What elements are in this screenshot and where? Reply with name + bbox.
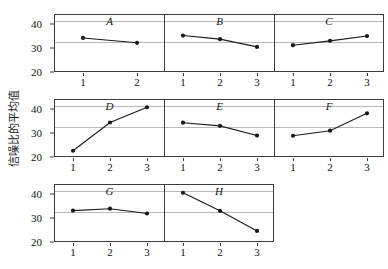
y-tick-label: 40 <box>31 103 42 114</box>
panel-strip: G123H123 <box>54 184 274 242</box>
x-tick-label: 1 <box>80 76 86 88</box>
series-line <box>165 100 275 158</box>
panel-row: 203040A12B123C123 <box>0 14 384 88</box>
panel-strip: D123E123F123 <box>54 99 384 157</box>
panel-strip: A12B123C123 <box>54 14 384 72</box>
y-axis: 203040 <box>0 184 54 242</box>
chart-panel-b: B123 <box>164 14 274 72</box>
x-tick-label: 3 <box>254 161 260 173</box>
x-tick-label: 1 <box>180 76 186 88</box>
x-tick-label: 1 <box>180 161 186 173</box>
series-line <box>55 185 165 243</box>
x-axis: 123 <box>275 73 385 89</box>
x-tick-label: 1 <box>180 246 186 258</box>
x-tick-label: 3 <box>144 161 150 173</box>
y-tick-label: 30 <box>31 42 42 53</box>
x-tick-label: 3 <box>254 76 260 88</box>
chart-figure: 信噪比的平均值 203040A12B123C123203040D123E123F… <box>0 0 388 269</box>
x-tick-label: 2 <box>217 161 223 173</box>
chart-panel-f: F123 <box>274 99 384 157</box>
y-tick-label: 30 <box>31 212 42 223</box>
x-axis: 12 <box>55 73 165 89</box>
x-tick-label: 2 <box>107 246 113 258</box>
x-tick-label: 3 <box>254 246 260 258</box>
x-tick-label: 3 <box>364 161 370 173</box>
x-tick-label: 3 <box>364 76 370 88</box>
x-tick-label: 1 <box>70 246 76 258</box>
y-axis: 203040 <box>0 14 54 72</box>
x-tick-label: 1 <box>290 161 296 173</box>
x-tick-label: 2 <box>217 76 223 88</box>
panel-row: 203040D123E123F123 <box>0 99 384 173</box>
series-line <box>55 15 165 73</box>
chart-panel-g: G123 <box>54 184 164 242</box>
x-axis: 123 <box>55 158 165 174</box>
x-tick-label: 2 <box>327 161 333 173</box>
chart-panel-d: D123 <box>54 99 164 157</box>
x-axis: 123 <box>165 73 275 89</box>
x-tick-label: 3 <box>144 246 150 258</box>
x-tick-label: 2 <box>217 246 223 258</box>
series-line <box>165 15 275 73</box>
x-tick-label: 2 <box>107 161 113 173</box>
x-tick-label: 2 <box>134 76 140 88</box>
x-axis: 123 <box>275 158 385 174</box>
series-line <box>165 185 275 243</box>
x-tick-label: 1 <box>290 76 296 88</box>
chart-panel-e: E123 <box>164 99 274 157</box>
y-tick-label: 20 <box>31 152 42 163</box>
chart-panel-h: H123 <box>164 184 274 242</box>
series-line <box>275 15 385 73</box>
x-axis: 123 <box>165 158 275 174</box>
series-line <box>275 100 385 158</box>
series-line <box>55 100 165 158</box>
x-axis: 123 <box>165 243 275 259</box>
y-tick-label: 40 <box>31 18 42 29</box>
y-tick-label: 30 <box>31 127 42 138</box>
chart-panel-a: A12 <box>54 14 164 72</box>
x-tick-label: 1 <box>70 161 76 173</box>
y-tick-label: 40 <box>31 188 42 199</box>
y-tick-label: 20 <box>31 67 42 78</box>
panel-row: 203040G123H123 <box>0 184 274 258</box>
y-axis: 203040 <box>0 99 54 157</box>
chart-panel-c: C123 <box>274 14 384 72</box>
y-tick-label: 20 <box>31 237 42 248</box>
x-tick-label: 2 <box>327 76 333 88</box>
x-axis: 123 <box>55 243 165 259</box>
